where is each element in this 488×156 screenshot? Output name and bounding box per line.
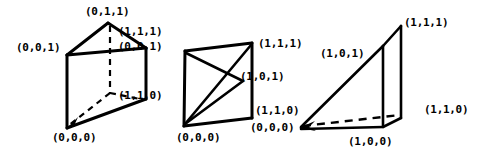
square-edge-top — [185, 43, 252, 51]
square-diagonal-upper — [186, 53, 243, 81]
square-internal-diagonals — [185, 45, 251, 124]
vertex-label-1-1-0-right: (1,1,0) — [424, 104, 468, 116]
wedge-edge-bottom-right — [383, 118, 401, 127]
vertex-label-1-0-1-right: (1,0,1) — [320, 48, 364, 60]
vertex-label-1-0-1-middle: (1,0,1) — [240, 71, 284, 83]
figure-canvas: (0,1,1) (1,1,1) (0,0,1) (0,0,1) (1,1,0) … — [0, 0, 488, 156]
vertex-label-1-1-0-middle: (1,1,0) — [255, 105, 299, 117]
vertex-label-1-0-0-right: (1,0,0) — [348, 136, 392, 148]
vertex-label-1-1-1-right: (1,1,1) — [404, 17, 448, 29]
vertex-label-1-1-1-left: (1,1,1) — [118, 26, 162, 38]
shape-triangular-prism — [67, 23, 146, 128]
prism-bottom-edge-left — [67, 99, 146, 128]
vertex-label-0-0-1-outer: (0,0,1) — [16, 42, 60, 54]
vertex-label-0-0-0-right: (0,0,0) — [250, 122, 294, 134]
shape-wedge — [301, 26, 401, 129]
vertex-label-0-1-1: (0,1,1) — [85, 6, 129, 18]
prism-top-edge-left — [67, 23, 108, 55]
vertex-label-1-1-0-left: (1,1,0) — [118, 90, 162, 102]
vertex-label-1-1-1-middle: (1,1,1) — [258, 38, 302, 50]
wedge-edge-top — [383, 26, 401, 46]
vertex-label-0-0-0-left: (0,0,0) — [52, 132, 96, 144]
vertex-label-0-0-1-inner: (0,0,1) — [118, 41, 162, 53]
square-edge-bottom — [184, 118, 252, 126]
wedge-edge-bottom-front — [301, 127, 383, 129]
square-edge-left — [184, 51, 185, 126]
vertex-label-0-0-0-middle: (0,0,0) — [176, 132, 220, 144]
